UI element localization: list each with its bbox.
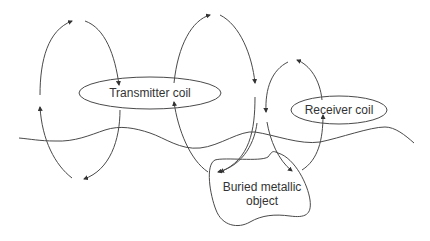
diagram-canvas: Transmitter coil Receiver coil Buried me…	[0, 0, 430, 241]
field-line-left-upper	[40, 21, 72, 95]
field-line-left-lower-up	[40, 107, 72, 178]
field-line-object-left	[218, 123, 257, 172]
ground-surface-line	[19, 127, 414, 148]
object-label-line2: object	[246, 194, 279, 208]
field-line-center-to-object	[220, 97, 255, 172]
receiver-coil-label: Receiver coil	[305, 103, 374, 117]
field-line-center-lower-up	[174, 102, 208, 172]
field-line-left-right-down	[85, 21, 119, 85]
field-line-receiver-upper	[297, 60, 322, 100]
field-line-receiver-left-down	[266, 62, 288, 112]
field-line-left-lower-return	[84, 110, 120, 179]
field-line-center-right-down	[220, 15, 255, 83]
object-label-line1: Buried metallic	[223, 180, 302, 194]
field-line-center-upper	[174, 15, 210, 83]
transmitter-coil-label: Transmitter coil	[109, 86, 191, 100]
field-line-object-right	[267, 122, 292, 171]
